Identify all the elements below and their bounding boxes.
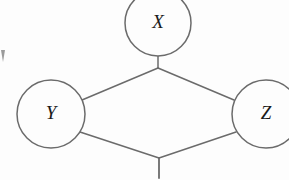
node-z-label: Z xyxy=(261,102,272,123)
node-z[interactable]: Z xyxy=(232,80,289,148)
left-edge-mark-icon xyxy=(1,50,5,62)
graph-diagram: X Y Z xyxy=(0,0,289,180)
edge-y-to-bottom-junction xyxy=(80,132,159,158)
edge-junction-to-z xyxy=(158,68,234,100)
node-x[interactable]: X xyxy=(125,0,191,56)
diagram-canvas: X Y Z xyxy=(0,0,289,180)
edge-z-to-bottom-junction xyxy=(159,132,236,158)
edge-group xyxy=(80,56,236,178)
node-y[interactable]: Y xyxy=(17,80,85,148)
node-x-label: X xyxy=(151,11,165,32)
edge-junction-to-y xyxy=(82,68,158,100)
